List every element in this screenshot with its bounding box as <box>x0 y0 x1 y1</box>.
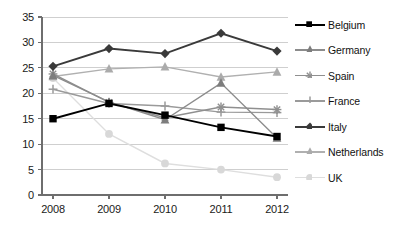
legend-swatch <box>295 120 325 134</box>
legend-swatch <box>295 94 325 108</box>
diamond-marker <box>272 46 281 55</box>
asterisk-marker <box>306 71 312 77</box>
plus-marker <box>161 102 170 111</box>
legend-item-italy[interactable]: Italy <box>295 114 400 140</box>
triangle-marker <box>273 67 282 76</box>
line-chart-svg <box>0 0 290 235</box>
circle-marker <box>105 130 113 138</box>
legend-swatch <box>295 145 325 159</box>
x-tick-label: 2008 <box>31 204 75 215</box>
legend-item-germany[interactable]: Germany <box>295 38 400 64</box>
asterisk-marker <box>217 103 226 112</box>
legend-item-uk[interactable]: UK <box>295 165 400 191</box>
square-marker <box>217 124 224 131</box>
square-marker <box>49 115 56 122</box>
square-marker <box>306 21 312 27</box>
chart-screenshot: 35302520151050 20082009201020112012 Belg… <box>0 0 400 235</box>
triangle-marker <box>306 147 312 154</box>
y-tick-label: 25 <box>8 63 34 73</box>
legend-label: Netherlands <box>325 146 384 158</box>
y-tick-label: 20 <box>8 88 34 98</box>
diamond-marker <box>216 29 225 38</box>
legend-label: France <box>325 95 360 107</box>
circle-marker <box>306 174 312 180</box>
legend-swatch <box>295 69 325 83</box>
square-marker <box>161 111 168 118</box>
legend-label: Italy <box>325 121 347 133</box>
y-tick-label: 0 <box>8 190 34 200</box>
y-tick-label: 10 <box>8 139 34 149</box>
asterisk-marker <box>273 105 282 114</box>
legend-item-netherlands[interactable]: Netherlands <box>295 140 400 166</box>
legend-label: Spain <box>325 70 354 82</box>
square-marker <box>273 133 280 140</box>
x-tick-label: 2010 <box>143 204 187 215</box>
chart-legend: BelgiumGermanySpainFranceItalyNetherland… <box>295 12 400 191</box>
plus-legend-icon <box>303 94 312 103</box>
legend-swatch <box>295 43 325 57</box>
legend-item-spain[interactable]: Spain <box>295 63 400 89</box>
diamond-legend-icon <box>303 120 312 129</box>
diamond-marker <box>160 49 169 58</box>
legend-label: Germany <box>325 44 370 56</box>
chart-plot-area: 35302520151050 20082009201020112012 <box>0 0 290 235</box>
x-tick-label: 2011 <box>199 204 243 215</box>
legend-swatch <box>295 171 325 185</box>
plus-marker <box>306 97 312 103</box>
legend-item-belgium[interactable]: Belgium <box>295 12 400 38</box>
y-tick-label: 15 <box>8 114 34 124</box>
triangle-legend-icon <box>303 145 312 154</box>
y-tick-label: 35 <box>8 12 34 22</box>
legend-label: Belgium <box>325 19 365 31</box>
diamond-marker <box>104 44 113 53</box>
triangle-legend-icon <box>303 43 312 52</box>
plus-marker <box>49 85 58 94</box>
diamond-marker <box>48 62 57 71</box>
asterisk-legend-icon <box>303 69 312 78</box>
square-marker <box>105 100 112 107</box>
circle-marker <box>161 160 169 168</box>
legend-item-france[interactable]: France <box>295 89 400 115</box>
y-tick-label: 5 <box>8 165 34 175</box>
y-tick-label: 30 <box>8 37 34 47</box>
circle-legend-icon <box>303 171 312 180</box>
circle-marker <box>217 166 225 174</box>
legend-label: UK <box>325 172 342 184</box>
square-legend-icon <box>303 18 312 27</box>
x-tick-label: 2012 <box>255 204 299 215</box>
diamond-marker <box>305 122 312 129</box>
series-netherlands <box>49 62 282 81</box>
legend-swatch <box>295 18 325 32</box>
x-tick-label: 2009 <box>87 204 131 215</box>
triangle-marker <box>306 45 312 52</box>
circle-marker <box>273 173 281 181</box>
